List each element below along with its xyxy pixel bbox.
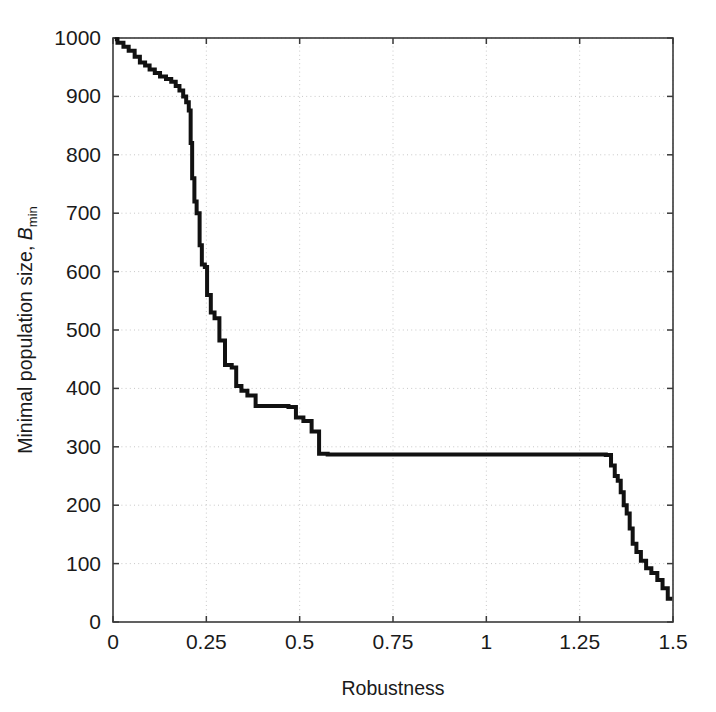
y-tick-label: 0 [89,610,101,633]
y-tick-label: 900 [66,84,101,107]
y-tick-label: 500 [66,318,101,341]
x-tick-label: 0.75 [373,630,414,653]
y-tick-label: 1000 [54,26,101,49]
y-tick-label: 800 [66,143,101,166]
x-tick-label: 0 [107,630,119,653]
chart-figure: 00.250.50.7511.251.5 0100200300400500600… [0,0,716,712]
chart-background [0,0,716,712]
y-axis-title-subscript: min [25,206,40,227]
y-tick-label: 300 [66,435,101,458]
y-tick-label: 400 [66,376,101,399]
y-tick-label: 100 [66,552,101,575]
y-tick-label: 200 [66,493,101,516]
y-axis-title-symbol: B [14,227,36,240]
x-axis-title: Robustness [342,677,445,699]
line-chart: 00.250.50.7511.251.5 0100200300400500600… [0,0,716,712]
y-tick-label: 600 [66,260,101,283]
x-tick-label: 1.5 [658,630,687,653]
x-tick-label: 1.25 [559,630,600,653]
x-tick-label: 0.25 [186,630,227,653]
y-axis-title-main: Minimal population size, [14,240,36,454]
x-tick-label: 1 [480,630,492,653]
x-tick-label: 0.5 [285,630,314,653]
y-tick-label: 700 [66,201,101,224]
